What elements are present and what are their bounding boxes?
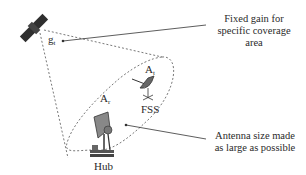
hub-antenna-icon bbox=[90, 112, 114, 157]
antenna-callout-dot bbox=[125, 124, 128, 127]
hub-area-symbol: Ar bbox=[100, 92, 110, 106]
gain-callout: Fixed gain for specific coverage area bbox=[206, 13, 302, 49]
fss-area-symbol: At bbox=[145, 63, 155, 77]
coverage-beam-left bbox=[40, 33, 68, 158]
satellite-icon bbox=[18, 12, 49, 43]
gain-callout-line bbox=[63, 25, 206, 41]
antenna-callout-line bbox=[126, 125, 206, 139]
coverage-beam-top bbox=[44, 30, 162, 57]
antenna-callout: Antenna size made as large as possible bbox=[208, 130, 302, 154]
fss-label: FSS bbox=[141, 103, 159, 115]
hub-label: Hub bbox=[94, 160, 113, 172]
satellite-gain-symbol: gt bbox=[48, 33, 55, 47]
fss-antenna-icon bbox=[132, 76, 154, 100]
gain-callout-dot bbox=[62, 40, 65, 43]
